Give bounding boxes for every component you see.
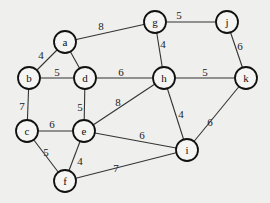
edge-weight-d-h: 6 bbox=[118, 66, 124, 78]
node-label: a bbox=[63, 36, 68, 48]
node-d: d bbox=[74, 67, 96, 89]
edge-weight-j-k: 6 bbox=[237, 40, 243, 52]
edge-weight-f-i: 7 bbox=[113, 162, 119, 174]
edge-weight-e-i: 6 bbox=[139, 129, 145, 141]
edge-weight-h-i: 4 bbox=[178, 108, 184, 120]
edge-weight-c-f: 5 bbox=[43, 146, 49, 158]
edge-weight-c-e: 6 bbox=[49, 118, 55, 130]
node-label: d bbox=[82, 72, 88, 84]
node-label: b bbox=[26, 72, 32, 84]
edge-weight-k-i: 6 bbox=[207, 116, 213, 128]
node-label: j bbox=[224, 16, 228, 28]
node-label: c bbox=[25, 125, 30, 137]
edge-weight-e-f: 4 bbox=[77, 155, 83, 167]
node-j: j bbox=[216, 11, 238, 33]
node-label: g bbox=[152, 16, 158, 28]
edge-weight-e-h: 8 bbox=[115, 96, 121, 108]
node-label: h bbox=[161, 72, 167, 84]
node-e: e bbox=[73, 120, 95, 142]
edge-e-i bbox=[84, 131, 187, 150]
edge-e-h bbox=[84, 78, 164, 131]
node-c: c bbox=[16, 120, 38, 142]
edge-weight-g-j: 5 bbox=[176, 9, 182, 21]
edge-weight-a-b: 4 bbox=[38, 49, 44, 61]
node-label: e bbox=[82, 125, 87, 137]
node-f: f bbox=[54, 170, 76, 192]
node-a: a bbox=[54, 31, 76, 53]
edge-f-i bbox=[65, 150, 187, 181]
node-b: b bbox=[18, 67, 40, 89]
weights-layer: 845654657568646547 bbox=[19, 9, 243, 174]
node-h: h bbox=[153, 67, 175, 89]
edge-weight-a-g: 8 bbox=[98, 20, 104, 32]
node-label: k bbox=[243, 72, 249, 84]
edge-weight-b-c: 7 bbox=[19, 100, 25, 112]
node-label: i bbox=[185, 144, 188, 156]
node-k: k bbox=[235, 67, 257, 89]
edge-weight-d-e: 5 bbox=[77, 101, 83, 113]
edge-weight-g-h: 4 bbox=[160, 38, 166, 50]
node-g: g bbox=[144, 11, 166, 33]
node-i: i bbox=[176, 139, 198, 161]
edge-weight-b-d: 5 bbox=[54, 66, 60, 78]
edge-a-g bbox=[65, 22, 155, 42]
edge-weight-h-k: 5 bbox=[202, 66, 208, 78]
edge-k-i bbox=[187, 78, 246, 150]
graph-diagram: 845654657568646547 abdgjhkcefi bbox=[0, 0, 270, 203]
node-label: f bbox=[63, 175, 67, 187]
